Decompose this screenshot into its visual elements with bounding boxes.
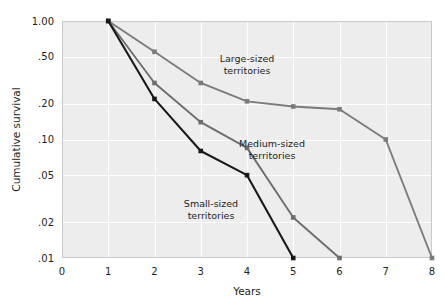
- data-point: [245, 173, 250, 178]
- data-point: [198, 81, 203, 86]
- x-tick-label: 5: [290, 266, 296, 277]
- data-point: [337, 107, 342, 112]
- x-tick-label: 6: [336, 266, 342, 277]
- data-point: [198, 149, 203, 154]
- data-point: [291, 104, 296, 109]
- data-point: [430, 256, 435, 261]
- annotation-line-2: territories: [188, 210, 235, 221]
- annotation-line-1: Large-sized: [220, 53, 275, 64]
- data-point: [106, 19, 111, 24]
- data-point: [152, 97, 157, 102]
- x-tick-label: 1: [105, 266, 111, 277]
- x-tick-label: 7: [383, 266, 389, 277]
- x-tick-label: 0: [59, 266, 65, 277]
- data-point: [337, 256, 342, 261]
- x-tick-label: 3: [198, 266, 204, 277]
- data-point: [198, 120, 203, 125]
- y-axis-tick-labels: 1.00.50.20.10.05.02.01: [32, 16, 54, 264]
- annotation-line-1: Medium-sized: [239, 138, 305, 149]
- chart-canvas: 012345678 1.00.50.20.10.05.02.01 Large-s…: [0, 0, 445, 304]
- annotation-large: Large-sizedterritories: [220, 53, 275, 76]
- annotation-line-1: Small-sized: [184, 198, 238, 209]
- x-axis-title: Years: [232, 285, 261, 297]
- data-point: [152, 81, 157, 86]
- annotation-line-2: territories: [249, 150, 296, 161]
- y-tick-label: .05: [38, 170, 54, 181]
- y-tick-label: .01: [38, 253, 54, 264]
- x-tick-label: 4: [244, 266, 250, 277]
- x-tick-label: 2: [151, 266, 157, 277]
- x-tick-label: 8: [429, 266, 435, 277]
- annotation-small: Small-sizedterritories: [184, 198, 238, 221]
- y-axis-title: Cumulative survival: [10, 87, 22, 191]
- annotation-line-2: territories: [224, 65, 271, 76]
- data-point: [152, 49, 157, 54]
- data-point: [383, 137, 388, 142]
- survival-chart: 012345678 1.00.50.20.10.05.02.01 Large-s…: [0, 0, 445, 304]
- data-point: [245, 99, 250, 104]
- y-tick-label: 1.00: [32, 16, 54, 27]
- data-point: [291, 215, 296, 220]
- x-axis-tick-labels: 012345678: [59, 266, 435, 277]
- y-tick-label: .20: [38, 98, 54, 109]
- data-point: [291, 256, 296, 261]
- y-tick-label: .10: [38, 134, 54, 145]
- y-tick-label: .02: [38, 217, 54, 228]
- annotation-medium: Medium-sizedterritories: [239, 138, 305, 161]
- y-tick-label: .50: [38, 51, 54, 62]
